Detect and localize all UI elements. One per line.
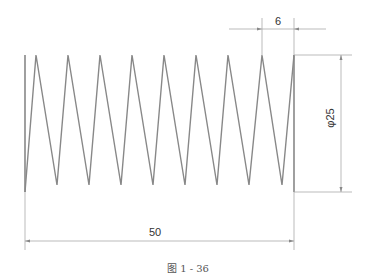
spring-drawing: 6 φ25 50 图 1 - 36 [0,0,375,278]
length-label: 50 [149,226,161,238]
figure-caption: 图 1 - 36 [167,263,209,274]
diameter-label: φ25 [324,108,336,127]
spring-coils [25,55,294,192]
pitch-label: 6 [275,15,281,27]
